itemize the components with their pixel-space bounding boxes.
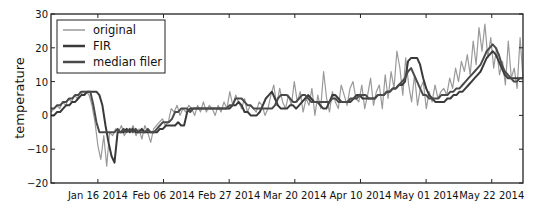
y-tick-label: 20 <box>35 43 48 54</box>
x-tick-label: May 22 2014 <box>459 190 524 201</box>
x-tick-label: May 01 2014 <box>393 190 458 201</box>
y-tick-label: 0 <box>42 110 48 121</box>
y-axis-label: temperature <box>12 57 27 139</box>
y-tick-label: −20 <box>27 178 48 189</box>
legend-label-original: original <box>93 23 136 37</box>
legend-label-FIR: FIR <box>93 39 111 53</box>
legend: originalFIRmedian filer <box>57 20 165 73</box>
y-tick-label: 10 <box>35 77 48 88</box>
y-tick-label: −10 <box>27 144 48 155</box>
x-tick-label: Mar 20 2014 <box>263 190 326 201</box>
x-tick-label: Feb 06 2014 <box>132 190 194 201</box>
x-tick-label: Apr 10 2014 <box>330 190 392 201</box>
x-tick-label: Jan 16 2014 <box>67 190 128 201</box>
legend-label-median-filer: median filer <box>93 55 162 69</box>
x-tick-label: Feb 27 2014 <box>198 190 260 201</box>
temperature-chart: −20−100102030 Jan 16 2014Feb 06 2014Feb … <box>0 0 535 213</box>
y-tick-label: 30 <box>35 9 48 20</box>
